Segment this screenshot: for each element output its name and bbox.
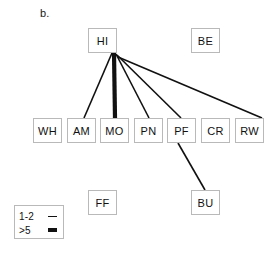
legend-row-thick: >5	[19, 223, 59, 237]
node-label: HI	[97, 35, 109, 47]
legend-row-thin: 1-2	[19, 209, 59, 223]
node-BE[interactable]: BE	[191, 28, 220, 53]
node-label: BU	[198, 197, 214, 209]
node-MO[interactable]: MO	[100, 118, 129, 143]
legend-box: 1-2 >5	[14, 205, 64, 239]
node-BU[interactable]: BU	[191, 190, 220, 215]
node-HI[interactable]: HI	[88, 28, 117, 53]
legend-swatch-thin-wrap	[45, 216, 59, 217]
node-label: MO	[105, 125, 123, 137]
legend-label: 1-2	[19, 211, 45, 222]
node-WH[interactable]: WH	[33, 118, 62, 143]
node-FF[interactable]: FF	[88, 190, 117, 215]
thin-line-icon	[48, 216, 57, 217]
node-label: RW	[240, 125, 259, 137]
edge-HI-MO	[114, 53, 115, 118]
node-label: WH	[38, 125, 57, 137]
node-label: FF	[95, 197, 109, 209]
node-CR[interactable]: CR	[201, 118, 230, 143]
edge-PF-BU	[178, 143, 205, 190]
node-label: PF	[174, 125, 189, 137]
node-RW[interactable]: RW	[235, 118, 264, 143]
edge-HI-RW	[118, 57, 262, 118]
thick-line-icon	[48, 228, 57, 232]
node-label: PN	[141, 125, 157, 137]
node-AM[interactable]: AM	[67, 118, 96, 143]
legend-swatch-thick-wrap	[45, 228, 59, 232]
legend-label: >5	[19, 225, 45, 236]
node-label: AM	[73, 125, 90, 137]
edge-HI-AM	[84, 53, 112, 118]
node-label: BE	[198, 35, 213, 47]
edge-HI-PF	[117, 55, 181, 118]
network-diagram-panel-b: b. HI BE WH AM MO PN PF CR RW FF BU 1-2 …	[0, 0, 280, 253]
node-PF[interactable]: PF	[167, 118, 196, 143]
node-label: CR	[207, 125, 224, 137]
node-PN[interactable]: PN	[134, 118, 163, 143]
